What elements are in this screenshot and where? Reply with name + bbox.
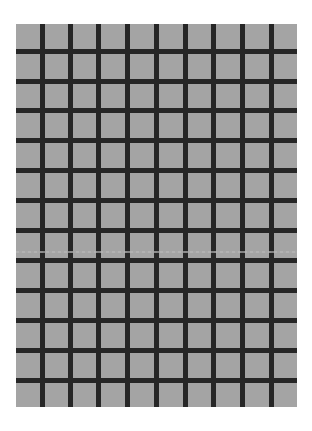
grid-horizontal-line <box>16 378 297 383</box>
scan-artifact-line <box>16 251 297 253</box>
grid-canvas <box>16 24 297 407</box>
grid-horizontal-line <box>16 138 297 143</box>
grid-horizontal-line <box>16 288 297 293</box>
grid-horizontal-line <box>16 318 297 323</box>
grid-horizontal-line <box>16 49 297 54</box>
grid-horizontal-line <box>16 79 297 84</box>
grid-horizontal-line <box>16 168 297 173</box>
grid-horizontal-line <box>16 108 297 113</box>
grid-horizontal-line <box>16 258 297 263</box>
grid-horizontal-line <box>16 228 297 233</box>
grid-horizontal-line <box>16 348 297 353</box>
grid-horizontal-line <box>16 198 297 203</box>
